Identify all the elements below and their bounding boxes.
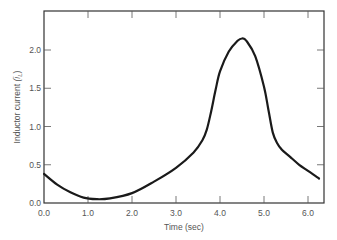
x-axis-ticks: 0.01.02.03.04.05.06.0 [38,11,314,218]
x-tick-label: 5.0 [258,208,270,218]
y-tick-label: 2.0 [29,45,41,55]
y-axis-label-close: ) [12,70,22,73]
x-tick-label: 0.0 [38,208,50,218]
plot-frame [44,11,324,203]
x-tick-label: 1.0 [82,208,94,218]
y-axis-ticks: 0.00.51.01.52.0 [29,45,324,208]
x-tick-label: 2.0 [126,208,138,218]
inductor-current-line [44,38,319,199]
x-tick-label: 3.0 [170,208,182,218]
x-tick-label: 6.0 [302,208,314,218]
y-tick-label: 0.5 [29,160,41,170]
y-axis-label-text: Inductor current [12,82,22,144]
y-axis-label: Inductor current (iL) [12,70,23,143]
y-tick-label: 1.5 [29,83,41,93]
x-tick-label: 4.0 [214,208,226,218]
y-tick-label: 1.0 [29,122,41,132]
x-axis-label: Time (sec) [164,222,204,232]
plot-border [44,11,324,203]
line-chart: 0.01.02.03.04.05.06.0 0.00.51.01.52.0 Ti… [0,0,337,240]
y-tick-label: 0.0 [29,198,41,208]
